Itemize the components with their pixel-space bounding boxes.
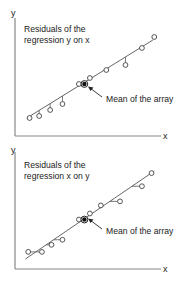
data-point	[149, 171, 154, 176]
annotation-line-1: Residuals of the	[24, 160, 86, 170]
mean-label: Mean of the array	[106, 94, 174, 104]
annotation-line-1: Residuals of the	[24, 24, 86, 34]
data-points	[26, 171, 154, 255]
data-points	[27, 35, 156, 121]
mean-dot	[82, 82, 86, 86]
y-axis-label: y	[11, 145, 16, 155]
y-axis-label: y	[11, 8, 16, 18]
data-point	[87, 76, 92, 81]
data-point	[49, 242, 54, 247]
data-point	[48, 108, 53, 113]
data-point	[60, 237, 65, 242]
data-point	[152, 35, 157, 40]
data-point	[60, 102, 65, 107]
data-point	[123, 63, 128, 68]
data-point	[104, 68, 109, 73]
data-point	[98, 203, 103, 208]
annotation-line-2: regression y on x	[24, 35, 90, 45]
data-point	[140, 184, 145, 189]
mean-dot	[82, 217, 86, 221]
data-point	[118, 199, 123, 204]
data-point	[87, 211, 92, 216]
mean-label: Mean of the array	[106, 226, 174, 236]
data-point	[27, 116, 32, 121]
data-point	[40, 249, 45, 254]
chart-regression-y-on-x: y x Residuals of the regression y on x M…	[0, 0, 188, 143]
x-axis-label: x	[163, 131, 168, 141]
data-point	[26, 249, 31, 254]
data-point	[37, 114, 42, 119]
mean-marker	[81, 216, 88, 223]
chart-regression-x-on-y: y x Residuals of the regression x on y M…	[0, 143, 188, 286]
data-point	[140, 46, 145, 51]
mean-marker	[81, 81, 88, 88]
x-axis-label: x	[163, 264, 168, 274]
annotation-line-2: regression x on y	[24, 171, 90, 181]
